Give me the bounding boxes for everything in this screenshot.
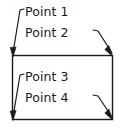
leader-point-1 [10, 9, 24, 57]
label-point-1: Point 1 [25, 6, 69, 19]
leader-line-point-1 [13, 9, 24, 53]
diagram-canvas: Point 1 Point 2 Point 3 Point 4 [0, 0, 123, 130]
leader-point-2 [93, 30, 113, 57]
diagram-vector-layer [0, 0, 123, 130]
rectangle-shape [13, 56, 113, 120]
label-point-4: Point 4 [25, 92, 69, 105]
label-point-3: Point 3 [25, 71, 69, 84]
label-point-2: Point 2 [25, 27, 69, 40]
